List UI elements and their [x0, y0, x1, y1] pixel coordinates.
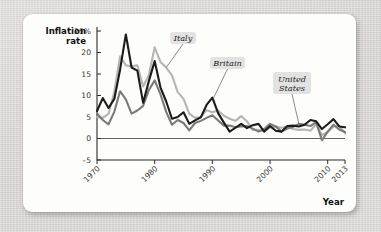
- x-tick-label: 2010: [313, 164, 333, 184]
- callout-leader-line: [214, 69, 228, 98]
- x-tick-label: 2013: [330, 164, 350, 184]
- y-tick-label: 5: [86, 113, 91, 122]
- chart-figure: 25%20151050–5197019801990200020102013 It…: [0, 0, 381, 232]
- callout-label-britain: Britain: [212, 58, 242, 68]
- callout-label-italy: Italy: [173, 33, 193, 43]
- x-tick-label: 1980: [140, 164, 160, 184]
- x-tick-label: 2000: [255, 164, 275, 184]
- callout-label-united-states: States: [279, 83, 305, 93]
- callout-leader-line: [166, 44, 183, 68]
- y-tick-label: 0: [86, 134, 91, 143]
- y-tick-label: 15: [81, 70, 91, 79]
- y-tick-label: 20: [81, 48, 91, 57]
- x-axis-title: Year: [322, 197, 345, 207]
- y-axis-title-line1: Inflation: [45, 26, 86, 36]
- y-tick-label: –5: [82, 156, 91, 165]
- y-axis-title-line2: rate: [66, 36, 86, 46]
- y-tick-label: 10: [81, 91, 91, 100]
- x-tick-label: 1970: [82, 164, 102, 184]
- inflation-line-chart: 25%20151050–5197019801990200020102013 It…: [0, 0, 381, 232]
- callout-leader-line: [292, 94, 299, 124]
- x-tick-label: 1990: [197, 164, 217, 184]
